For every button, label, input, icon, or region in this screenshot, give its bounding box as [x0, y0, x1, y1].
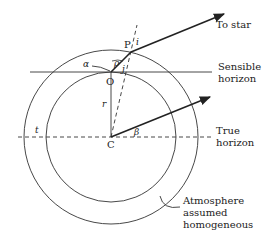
point-c-label: C [107, 139, 115, 150]
true-horizon-label-1: True [216, 125, 240, 136]
sensible-horizon-label-2: horizon [218, 73, 257, 84]
i-symbol: i [136, 37, 139, 47]
atmosphere-label-3: homogeneous [183, 219, 253, 230]
alpha-pointer-curve [92, 66, 110, 71]
r-symbol: r [102, 99, 107, 109]
atmosphere-label-1: Atmosphere [182, 195, 244, 206]
beta-symbol: β [133, 127, 139, 137]
point-p-label: P [124, 39, 131, 50]
atmosphere-label-2: assumed [183, 207, 228, 218]
point-o-label: O [106, 76, 114, 87]
rho-symbol: ρ [113, 58, 120, 68]
alpha-symbol: α [83, 59, 89, 69]
atmosphere-leader-curve [160, 196, 180, 208]
true-horizon-label-2: horizon [216, 137, 255, 148]
sensible-horizon-label-1: Sensible [218, 61, 261, 72]
ray-to-star[interactable] [131, 14, 224, 52]
t-symbol: t [35, 125, 39, 135]
parallel-ray-from-c [111, 97, 210, 137]
atmospheric-refraction-diagram: To star Sensible horizon True horizon At… [0, 0, 263, 242]
to-star-label: To star [216, 19, 251, 30]
